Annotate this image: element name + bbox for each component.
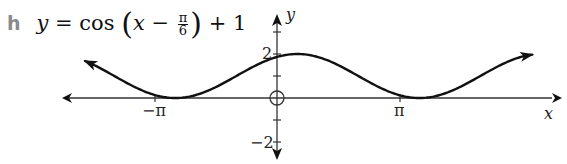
y-axis: 2 −2 y (250, 5, 296, 160)
x-tick-label-neg-pi: −π (142, 101, 166, 120)
function-plot: −π π x 2 −2 y (0, 0, 567, 164)
x-axis: −π π x (62, 93, 562, 123)
cosine-curve (85, 54, 532, 98)
x-axis-right-arrow-icon (552, 93, 562, 103)
y-tick-label-neg2: −2 (250, 133, 274, 152)
y-axis-label: y (285, 5, 296, 24)
x-axis-label: x (544, 104, 553, 123)
x-tick-label-pi: π (394, 101, 405, 120)
